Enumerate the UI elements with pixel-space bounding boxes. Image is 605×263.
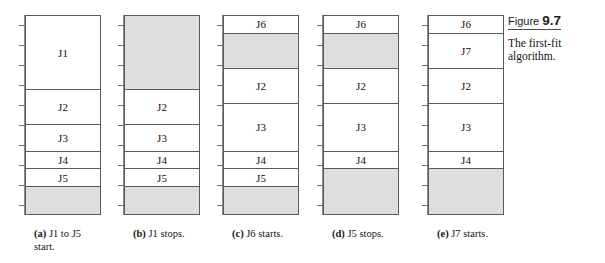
caption-tag: (d) xyxy=(332,228,345,239)
caption-tag: (c) xyxy=(232,228,244,239)
memory-segment-free xyxy=(125,16,199,90)
memory-segment-free xyxy=(125,187,199,214)
memory-column-a: J1J2J3J4J5(a) J1 to J5start. xyxy=(20,0,125,263)
caption-tag: (b) xyxy=(133,228,146,239)
memory-segment-j4: J4 xyxy=(224,152,298,170)
memory-segment-j4: J4 xyxy=(26,152,100,170)
memory-box: J6J2J3J4 xyxy=(323,15,399,215)
memory-box: J6J2J3J4J5 xyxy=(223,15,299,215)
memory-segment-j1: J1 xyxy=(26,16,100,90)
figure-title-block: Figure 9.7 The first-fit algorithm. xyxy=(508,11,604,63)
memory-segment-j3: J3 xyxy=(125,125,199,152)
memory-segment-free xyxy=(26,187,100,214)
memory-segment-j4: J4 xyxy=(125,152,199,170)
memory-segment-j2: J2 xyxy=(125,90,199,125)
caption-line-1: J7 starts. xyxy=(451,228,488,239)
caption-line-1: J1 stops. xyxy=(148,228,184,239)
memory-segment-j3: J3 xyxy=(429,104,503,152)
memory-segment-free xyxy=(224,34,298,70)
figure-label-text: Figure xyxy=(508,15,539,27)
memory-segment-j3: J3 xyxy=(26,125,100,152)
column-caption: (e) J7 starts. xyxy=(437,228,537,241)
memory-segment-j4: J4 xyxy=(429,152,503,170)
figure-number: 9.7 xyxy=(542,13,561,28)
memory-box: J6J7J2J3J4 xyxy=(428,15,504,215)
caption-tag: (e) xyxy=(437,228,449,239)
memory-segment-j4: J4 xyxy=(324,152,398,170)
memory-segment-j3: J3 xyxy=(324,104,398,152)
memory-box: J2J3J4J5 xyxy=(124,15,200,215)
caption-line-1: J5 stops. xyxy=(347,228,383,239)
memory-segment-j5: J5 xyxy=(26,169,100,187)
memory-segment-j6: J6 xyxy=(324,16,398,34)
memory-segment-j2: J2 xyxy=(224,69,298,104)
caption-tag: (a) xyxy=(34,228,46,239)
memory-segment-j7: J7 xyxy=(429,34,503,70)
column-caption: (d) J5 stops. xyxy=(332,228,432,241)
memory-segment-j2: J2 xyxy=(429,69,503,104)
caption-line-1: J1 to J5 xyxy=(49,228,81,239)
figure-9-7: J1J2J3J4J5(a) J1 to J5start.J2J3J4J5(b) … xyxy=(0,0,605,263)
memory-segment-j3: J3 xyxy=(224,104,298,152)
memory-column-d: J6J2J3J4(d) J5 stops. xyxy=(318,0,423,263)
caption-line-1: J6 starts. xyxy=(246,228,283,239)
memory-segment-free xyxy=(224,187,298,214)
figure-subtitle: The first-fit algorithm. xyxy=(508,37,604,63)
column-caption: (c) J6 starts. xyxy=(232,228,332,241)
memory-segment-free xyxy=(324,34,398,70)
memory-segment-j2: J2 xyxy=(26,90,100,125)
memory-column-b: J2J3J4J5(b) J1 stops. xyxy=(119,0,224,263)
memory-segment-j6: J6 xyxy=(224,16,298,34)
memory-segment-j5: J5 xyxy=(224,169,298,187)
memory-segment-j6: J6 xyxy=(429,16,503,34)
memory-segment-free xyxy=(324,169,398,214)
memory-box: J1J2J3J4J5 xyxy=(25,15,101,215)
memory-segment-j2: J2 xyxy=(324,69,398,104)
memory-segment-j5: J5 xyxy=(125,169,199,187)
figure-label: Figure 9.7 xyxy=(508,13,561,30)
memory-column-c: J6J2J3J4J5(c) J6 starts. xyxy=(218,0,323,263)
caption-line-2: start. xyxy=(34,241,55,252)
memory-segment-free xyxy=(429,169,503,214)
